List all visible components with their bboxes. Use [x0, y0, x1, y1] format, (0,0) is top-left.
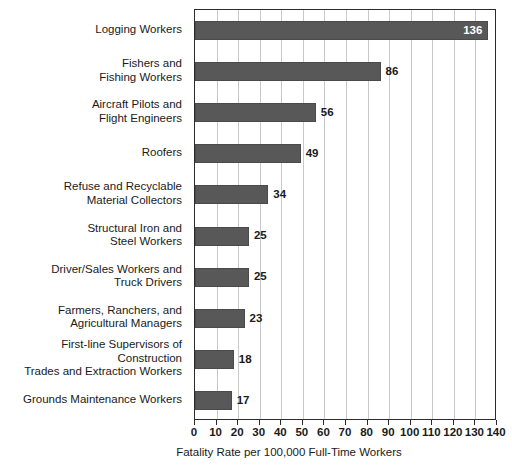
- x-axis-title-text: Fatality Rate per 100,000 Full-Time Work…: [176, 446, 402, 458]
- category-label: Roofers: [0, 143, 188, 162]
- bar-row: 49: [195, 144, 495, 163]
- bar-row: 23: [195, 309, 495, 328]
- bar-value-label: 25: [254, 230, 267, 242]
- x-axis-tick: [496, 420, 497, 425]
- bar-value-label: 18: [239, 354, 252, 366]
- bar-row: 86: [195, 62, 495, 81]
- x-axis-tick: [388, 420, 389, 425]
- plot-area: 136865649342525231817: [194, 9, 496, 420]
- x-axis-tick: [453, 420, 454, 425]
- x-axis-tick-label: 60: [317, 426, 330, 438]
- x-axis-tick-label: 20: [231, 426, 244, 438]
- bar-row: 25: [195, 268, 495, 287]
- x-axis-tick: [431, 420, 432, 425]
- x-axis-tick-label: 30: [252, 426, 265, 438]
- x-axis-tick: [367, 420, 368, 425]
- bar: [195, 103, 316, 122]
- x-axis-tick: [216, 420, 217, 425]
- bar: [195, 227, 249, 246]
- x-axis-tick: [259, 420, 260, 425]
- x-axis-tick-label: 70: [339, 426, 352, 438]
- x-axis-tick-label: 140: [486, 426, 505, 438]
- bar-rows: 136865649342525231817: [195, 10, 495, 419]
- bar-row: 56: [195, 103, 495, 122]
- category-label: Farmers, Ranchers, and Agricultural Mana…: [0, 308, 188, 327]
- bar-row: 18: [195, 350, 495, 369]
- x-axis-tick-label: 110: [422, 426, 441, 438]
- category-label: Driver/Sales Workers and Truck Drivers: [0, 267, 188, 286]
- bar-value-label: 136: [463, 25, 482, 37]
- x-axis-tick: [280, 420, 281, 425]
- bar-value-label: 34: [273, 189, 286, 201]
- category-label: First-line Supervisors of Construction T…: [0, 349, 188, 368]
- fatality-rate-bar-chart: Logging WorkersFishers and Fishing Worke…: [0, 0, 512, 468]
- x-axis-tick-label: 40: [274, 426, 287, 438]
- bar-value-label: 86: [386, 66, 399, 78]
- bar-value-label: 49: [306, 148, 319, 160]
- bar: [195, 268, 249, 287]
- bar-value-label: 25: [254, 271, 267, 283]
- x-axis-tick-label: 100: [400, 426, 419, 438]
- x-axis-tick-label: 0: [191, 426, 197, 438]
- x-axis-tick: [345, 420, 346, 425]
- bar-value-label: 56: [321, 107, 334, 119]
- x-axis-tick: [302, 420, 303, 425]
- bar: [195, 391, 232, 410]
- x-axis-tick-label: 90: [382, 426, 395, 438]
- category-label: Aircraft Pilots and Flight Engineers: [0, 102, 188, 121]
- bar-row: 17: [195, 391, 495, 410]
- x-axis-title: Fatality Rate per 100,000 Full-Time Work…: [0, 446, 512, 458]
- x-axis-tick: [474, 420, 475, 425]
- category-label: Fishers and Fishing Workers: [0, 61, 188, 80]
- bar: [195, 21, 488, 40]
- category-label: Logging Workers: [0, 20, 188, 39]
- category-label: Structural Iron and Steel Workers: [0, 226, 188, 245]
- category-label: Refuse and Recyclable Material Collector…: [0, 184, 188, 203]
- x-axis-tick: [194, 420, 195, 425]
- x-axis-tick: [237, 420, 238, 425]
- bar: [195, 350, 234, 369]
- bar: [195, 62, 381, 81]
- bar-row: 34: [195, 185, 495, 204]
- category-label: Grounds Maintenance Workers: [0, 390, 188, 409]
- x-axis-tick-label: 120: [443, 426, 462, 438]
- x-axis-tick: [410, 420, 411, 425]
- x-axis-tick-label: 80: [360, 426, 373, 438]
- x-axis: 0102030405060708090100110120130140: [194, 420, 496, 444]
- category-axis-labels: Logging WorkersFishers and Fishing Worke…: [0, 9, 188, 420]
- bar-value-label: 17: [237, 395, 250, 407]
- x-axis-tick-label: 10: [209, 426, 222, 438]
- bar-value-label: 23: [250, 313, 263, 325]
- bar: [195, 144, 301, 163]
- bar: [195, 309, 245, 328]
- bar: [195, 185, 268, 204]
- bar-row: 25: [195, 227, 495, 246]
- x-axis-tick-label: 130: [465, 426, 484, 438]
- bar-row: 136: [195, 21, 495, 40]
- x-axis-tick: [323, 420, 324, 425]
- x-axis-tick-label: 50: [295, 426, 308, 438]
